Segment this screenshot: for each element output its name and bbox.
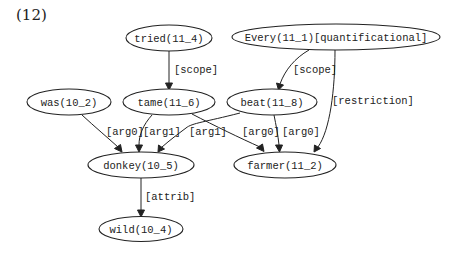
edge-label: [arg0] [242, 126, 280, 138]
edge-donkey-wild: [attrib] [138, 178, 196, 217]
edge-was-donkey: [arg0] [82, 115, 144, 152]
edge-beat-farmer: [arg0] [274, 115, 320, 152]
edge-label: [arg0] [106, 126, 144, 138]
edge-label: [arg1] [189, 126, 227, 138]
edge-every-beat: [scope] [277, 50, 338, 90]
svg-text:farmer(11_2): farmer(11_2) [247, 160, 323, 172]
edge-tried-tame: [scope] [166, 51, 219, 90]
svg-text:beat(11_8): beat(11_8) [240, 97, 303, 109]
node-tried[interactable]: tried(11_4) [126, 25, 212, 51]
svg-text:was(10_2): was(10_2) [41, 97, 98, 109]
semantic-graph: [scope] [scope] [restriction] [arg0] [ar… [0, 0, 457, 255]
svg-text:donkey(10_5): donkey(10_5) [103, 160, 179, 172]
edge-label: [attrib] [145, 191, 195, 203]
edge-label: [arg0] [282, 126, 320, 138]
edge-label: [restriction] [332, 95, 414, 107]
svg-text:tried(11_4): tried(11_4) [134, 33, 203, 45]
node-beat[interactable]: beat(11_8) [227, 89, 317, 115]
edge-label: [scope] [174, 64, 218, 76]
edge-label: [scope] [293, 64, 337, 76]
svg-text:Every(11_1)[quantificational]: Every(11_1)[quantificational] [245, 32, 428, 44]
node-farmer[interactable]: farmer(11_2) [234, 152, 336, 178]
node-tame[interactable]: tame(11_6) [123, 89, 215, 115]
node-every[interactable]: Every(11_1)[quantificational] [232, 24, 440, 50]
svg-text:wild(10_4): wild(10_4) [109, 224, 172, 236]
node-was[interactable]: was(10_2) [27, 89, 111, 115]
node-wild[interactable]: wild(10_4) [99, 217, 183, 242]
svg-text:tame(11_6): tame(11_6) [137, 97, 200, 109]
node-donkey[interactable]: donkey(10_5) [88, 152, 194, 178]
